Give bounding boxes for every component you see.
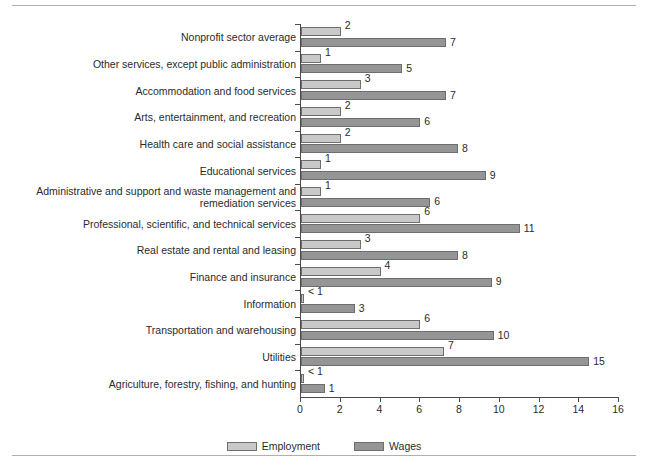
x-axis-tick bbox=[340, 397, 341, 402]
x-axis-tick-label: 12 bbox=[533, 403, 545, 415]
x-axis-tick-label: 0 bbox=[297, 403, 303, 415]
bar-value-label: < 1 bbox=[308, 286, 323, 297]
category-label: Educational services bbox=[6, 157, 296, 184]
chart-row: Finance and insurance49 bbox=[0, 264, 648, 291]
x-axis-tick bbox=[419, 397, 420, 402]
bar-wages bbox=[301, 357, 589, 366]
legend-item-employment[interactable]: Employment bbox=[227, 440, 320, 452]
chart-row: Professional, scientific, and technical … bbox=[0, 210, 648, 237]
category-label: Transportation and warehousing bbox=[6, 317, 296, 344]
chart-row: Administrative and support and waste man… bbox=[0, 184, 648, 211]
bar-value-label: 2 bbox=[345, 100, 351, 111]
bar-value-label: 1 bbox=[325, 153, 331, 164]
bar-value-label: 6 bbox=[424, 313, 430, 324]
bar-value-label: 6 bbox=[434, 196, 440, 207]
bar-value-label: 7 bbox=[450, 37, 456, 48]
x-axis-tick-label: 6 bbox=[416, 403, 422, 415]
bar-value-label: 2 bbox=[345, 20, 351, 31]
bar-employment bbox=[301, 294, 304, 303]
legend-swatch-employment bbox=[227, 442, 257, 451]
category-label: Accommodation and food services bbox=[6, 77, 296, 104]
bar-employment bbox=[301, 134, 341, 143]
x-axis-tick bbox=[300, 397, 301, 402]
chart-row: Accommodation and food services37 bbox=[0, 77, 648, 104]
x-axis-tick-label: 2 bbox=[337, 403, 343, 415]
category-label: Nonprofit sector average bbox=[6, 24, 296, 51]
chart-row: Other services, except public administra… bbox=[0, 51, 648, 78]
chart-row: Utilities715 bbox=[0, 344, 648, 371]
bar-wages bbox=[301, 38, 446, 47]
x-axis-tick-label: 8 bbox=[456, 403, 462, 415]
category-label: Professional, scientific, and technical … bbox=[6, 210, 296, 237]
category-label: Real estate and rental and leasing bbox=[6, 237, 296, 264]
bar-value-label: 3 bbox=[365, 233, 371, 244]
bar-value-label: 7 bbox=[450, 90, 456, 101]
bar-value-label: 7 bbox=[448, 340, 454, 351]
bar-value-label: 9 bbox=[490, 170, 496, 181]
bar-wages bbox=[301, 91, 446, 100]
category-label: Health care and social assistance bbox=[6, 131, 296, 158]
bar-employment bbox=[301, 54, 321, 63]
x-axis-tick bbox=[539, 397, 540, 402]
bar-value-label: 15 bbox=[593, 356, 605, 367]
bar-employment bbox=[301, 80, 361, 89]
bar-wages bbox=[301, 251, 458, 260]
bar-value-label: < 1 bbox=[308, 366, 323, 377]
x-axis-tick bbox=[380, 397, 381, 402]
category-label: Utilities bbox=[6, 344, 296, 371]
category-label: Arts, entertainment, and recreation bbox=[6, 104, 296, 131]
bar-value-label: 3 bbox=[365, 73, 371, 84]
x-axis-tick-label: 16 bbox=[612, 403, 624, 415]
chart-row: Arts, entertainment, and recreation26 bbox=[0, 104, 648, 131]
x-axis-tick bbox=[618, 397, 619, 402]
legend-swatch-wages bbox=[354, 442, 384, 451]
bar-value-label: 5 bbox=[406, 63, 412, 74]
chart-row: Real estate and rental and leasing38 bbox=[0, 237, 648, 264]
bar-employment bbox=[301, 267, 381, 276]
bar-value-label: 1 bbox=[325, 47, 331, 58]
bar-employment bbox=[301, 107, 341, 116]
bar-employment bbox=[301, 187, 321, 196]
category-label: Information bbox=[6, 290, 296, 317]
bar-wages bbox=[301, 304, 355, 313]
bar-value-label: 3 bbox=[359, 303, 365, 314]
legend-item-wages[interactable]: Wages bbox=[354, 440, 421, 452]
bar-value-label: 10 bbox=[498, 330, 510, 341]
legend-label: Wages bbox=[389, 440, 421, 452]
x-axis-tick-label: 14 bbox=[572, 403, 584, 415]
x-axis-tick bbox=[499, 397, 500, 402]
legend-label: Employment bbox=[262, 440, 320, 452]
chart-row: Transportation and warehousing610 bbox=[0, 317, 648, 344]
top-divider-rule bbox=[12, 5, 636, 6]
bar-employment bbox=[301, 374, 304, 383]
bar-employment bbox=[301, 320, 420, 329]
bar-employment bbox=[301, 160, 321, 169]
bar-wages bbox=[301, 198, 430, 207]
x-axis-tick-label: 4 bbox=[377, 403, 383, 415]
bar-employment bbox=[301, 27, 341, 36]
bar-value-label: 8 bbox=[462, 143, 468, 154]
category-label: Other services, except public administra… bbox=[6, 51, 296, 78]
bar-wages bbox=[301, 224, 520, 233]
x-axis-tick-label: 10 bbox=[493, 403, 505, 415]
bar-value-label: 1 bbox=[325, 180, 331, 191]
bar-wages bbox=[301, 64, 402, 73]
chart-legend: EmploymentWages bbox=[0, 436, 648, 456]
bar-value-label: 2 bbox=[345, 127, 351, 138]
bar-value-label: 6 bbox=[424, 206, 430, 217]
bar-employment bbox=[301, 214, 420, 223]
bar-wages bbox=[301, 331, 494, 340]
bar-wages bbox=[301, 118, 420, 127]
category-label: Finance and insurance bbox=[6, 264, 296, 291]
bar-wages bbox=[301, 278, 492, 287]
x-axis: 0246810121416 bbox=[0, 392, 648, 420]
grouped-bar-chart: Nonprofit sector average27Other services… bbox=[0, 18, 648, 418]
bar-value-label: 8 bbox=[462, 250, 468, 261]
bar-value-label: 9 bbox=[496, 276, 502, 287]
chart-row: Information< 13 bbox=[0, 290, 648, 317]
bar-value-label: 11 bbox=[524, 223, 535, 234]
bar-value-label: 4 bbox=[385, 260, 391, 271]
bar-employment bbox=[301, 240, 361, 249]
category-label: Administrative and support and waste man… bbox=[6, 184, 296, 211]
bar-employment bbox=[301, 347, 444, 356]
